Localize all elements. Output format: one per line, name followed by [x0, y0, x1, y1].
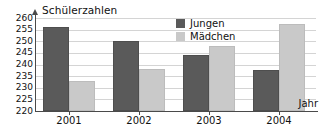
- legend-item-jungen: Jungen: [176, 17, 235, 30]
- gridline-245: [36, 53, 316, 54]
- x-tick-label-2003: 2003: [196, 116, 221, 126]
- y-tick-label-230: 230: [16, 83, 33, 92]
- bar-madchen-2002: [139, 69, 165, 111]
- x-tick-label-2004: 2004: [266, 116, 291, 126]
- y-tick-label-245: 245: [16, 48, 33, 57]
- legend-swatch-maedchen: [176, 32, 185, 41]
- legend-swatch-jungen: [176, 19, 185, 28]
- x-tick-mark-2004: [279, 111, 280, 115]
- bar-jungen-2001: [43, 27, 69, 111]
- y-tick-label-255: 255: [16, 25, 33, 34]
- bar-jungen-2003: [183, 55, 209, 111]
- y-tick-label-225: 225: [16, 95, 33, 104]
- y-tick-label-260: 260: [16, 14, 33, 23]
- legend-label-maedchen: Mädchen: [190, 32, 235, 42]
- chart-title: Schülerzahlen: [42, 4, 117, 16]
- legend-label-jungen: Jungen: [190, 19, 224, 29]
- legend-item-maedchen: Mädchen: [176, 30, 235, 43]
- x-tick-mark-2003: [209, 111, 210, 115]
- bar-jungen-2002: [113, 41, 139, 111]
- y-tick-label-250: 250: [16, 37, 33, 46]
- gridline-240: [36, 65, 316, 66]
- bar-jungen-2004: [253, 70, 279, 111]
- x-tick-label-2001: 2001: [56, 116, 81, 126]
- y-tick-label-235: 235: [16, 72, 33, 81]
- x-axis-name: Jahr: [298, 98, 318, 109]
- bar-madchen-2003: [209, 46, 235, 111]
- bar-chart: Schülerzahlen 22022523023524024525025526…: [0, 0, 320, 138]
- chart-legend: Jungen Mädchen: [176, 17, 235, 43]
- x-tick-mark-2001: [69, 111, 70, 115]
- x-tick-mark-2002: [139, 111, 140, 115]
- bar-madchen-2001: [69, 81, 95, 111]
- y-axis-ticks: 220225230235240245250255260: [0, 18, 33, 111]
- y-tick-label-240: 240: [16, 60, 33, 69]
- x-axis-line: [36, 111, 318, 112]
- x-tick-label-2002: 2002: [126, 116, 151, 126]
- y-tick-label-220: 220: [16, 107, 33, 116]
